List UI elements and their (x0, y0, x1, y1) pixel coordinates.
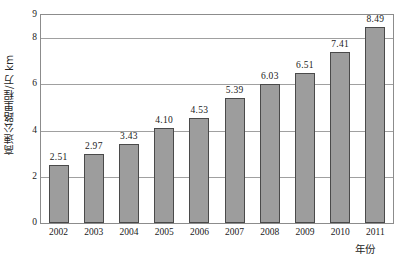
bar (154, 128, 174, 223)
bar (84, 154, 104, 223)
bar-value-label: 4.10 (144, 115, 184, 125)
bar (189, 118, 209, 223)
bar-value-label: 6.03 (250, 71, 290, 81)
bar (49, 165, 69, 223)
y-tick-label: 0 (1, 217, 37, 227)
x-tick-label: 2007 (217, 227, 253, 237)
x-tick-label: 2003 (76, 227, 112, 237)
y-tick-label: 2 (1, 171, 37, 181)
x-tick-label: 2009 (287, 227, 323, 237)
bar-value-label: 6.51 (285, 60, 325, 70)
bar (365, 27, 385, 223)
x-axis-tick-labels: 2002200320042005200620072008200920102011 (40, 227, 394, 243)
bar (260, 84, 280, 223)
bar-value-label: 2.97 (74, 141, 114, 151)
x-tick-label: 2004 (111, 227, 147, 237)
bar-chart-figure: 高速公路里程/万 km 024689 2.512.973.434.104.535… (0, 0, 406, 261)
bar (119, 144, 139, 223)
bar-value-label: 8.49 (355, 14, 395, 24)
bar (295, 73, 315, 223)
bar-value-label: 7.41 (320, 39, 360, 49)
bar-value-label: 5.39 (215, 85, 255, 95)
x-tick-label: 2006 (181, 227, 217, 237)
x-tick-label: 2011 (357, 227, 393, 237)
y-tick-label: 9 (1, 9, 37, 19)
x-tick-label: 2002 (41, 227, 77, 237)
x-tick-label: 2005 (146, 227, 182, 237)
bar (225, 98, 245, 223)
y-axis-tick-labels: 024689 (0, 0, 37, 261)
y-tick-label: 8 (1, 32, 37, 42)
bar-value-label: 3.43 (109, 131, 149, 141)
y-tick-label: 4 (1, 125, 37, 135)
bar (330, 52, 350, 223)
plot-area: 2.512.973.434.104.535.396.036.517.418.49 (40, 14, 394, 224)
bar-value-label: 4.53 (179, 105, 219, 115)
x-tick-label: 2010 (322, 227, 358, 237)
y-tick-label: 6 (1, 78, 37, 88)
x-tick-label: 2008 (252, 227, 288, 237)
x-axis-title: 年份 (355, 241, 375, 256)
bar-value-label: 2.51 (39, 152, 79, 162)
